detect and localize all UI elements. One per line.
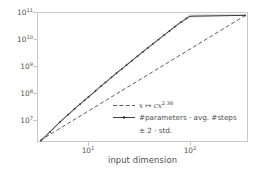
x-axis-tick-labels: 101 102 (0, 0, 258, 177)
x-axis-title: input dimension (37, 155, 248, 165)
chart-figure: 1011 1010 109 108 107 (0, 0, 258, 177)
x-tick-label-1e2: 102 (184, 147, 197, 154)
x-tick-label-1e1: 101 (82, 147, 95, 154)
